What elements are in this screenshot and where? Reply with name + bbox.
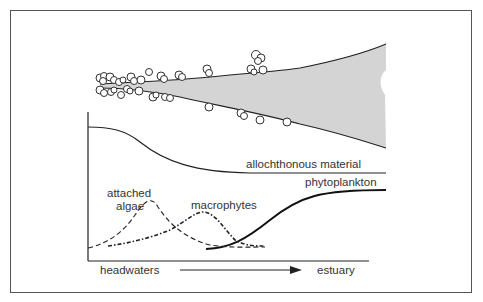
tree-icon — [203, 65, 213, 77]
tree-icon — [283, 118, 291, 126]
macrophytes-label: macrophytes — [191, 199, 257, 211]
tree-icon — [259, 66, 267, 74]
river-continuum-diagram: allochthonous material phytoplankton att… — [0, 0, 483, 302]
tree-icon — [137, 76, 145, 84]
tree-icon — [256, 116, 264, 124]
headwaters-label: headwaters — [100, 264, 160, 276]
tree-icon — [135, 87, 143, 95]
estuary-label: estuary — [317, 264, 355, 276]
tree-icon — [149, 92, 159, 101]
tree-icon — [118, 92, 125, 99]
phytoplankton-label: phytoplankton — [305, 176, 377, 188]
tree-icon — [205, 103, 213, 111]
tree-icon — [252, 51, 266, 65]
attached-algae-label-2: algae — [116, 200, 144, 212]
attached-algae-label-1: attached — [107, 187, 151, 199]
downstream-arrow-icon — [180, 266, 302, 274]
allochthonous-label: allochthonous material — [246, 158, 361, 170]
macrophytes-curve — [108, 212, 265, 246]
river-channel — [100, 44, 386, 148]
tree-icon — [162, 94, 174, 102]
tree-icon — [146, 69, 153, 76]
